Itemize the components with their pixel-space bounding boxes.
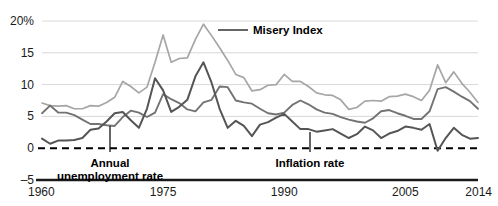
x-tick-label: 2005 [392, 185, 419, 199]
data-series-group [42, 24, 478, 151]
unemployment-label-line2: unemployment rate [57, 170, 163, 182]
x-tick-label: 1990 [271, 185, 298, 199]
y-tick-label: 0 [27, 141, 34, 155]
x-tick-label: 1960 [28, 185, 55, 199]
misery-index-label: Misery Index [253, 24, 323, 36]
chart-canvas: –505101520% 19601975199020052014 Misery … [0, 0, 498, 206]
x-tick-label: 2014 [465, 185, 492, 199]
y-tick-label: 5 [27, 109, 34, 123]
misery-index-chart: –505101520% 19601975199020052014 Misery … [0, 0, 498, 206]
y-tick-label: 15 [21, 46, 35, 60]
y-tick-label: 10 [21, 78, 35, 92]
y-axis-tick-labels: –505101520% [10, 14, 34, 187]
annotations-group: Misery IndexAnnualunemployment rateInfla… [57, 24, 345, 182]
x-tick-label: 1975 [150, 185, 177, 199]
series-line-misery-index [42, 24, 478, 109]
series-line-inflation-rate [42, 62, 478, 150]
x-axis-tick-labels: 19601975199020052014 [28, 185, 492, 199]
inflation-label: Inflation rate [275, 157, 344, 169]
y-tick-label: 20% [10, 14, 34, 28]
unemployment-label-line1: Annual [91, 157, 130, 169]
